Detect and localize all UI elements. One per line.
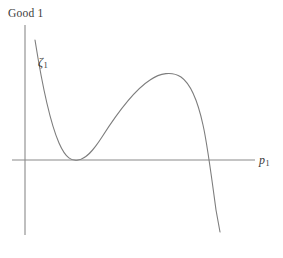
vertical-axis-label: Good 1 [8, 8, 43, 20]
horizontal-axis-label: p1 [259, 154, 270, 168]
excess-demand-figure: Good 1 ζ1 p1 [0, 0, 283, 258]
excess-demand-curve [35, 40, 220, 232]
horizontal-axis-label-subscript: 1 [265, 159, 270, 168]
plot-canvas [0, 0, 283, 258]
curve-label: ζ1 [38, 56, 48, 70]
curve-label-subscript: 1 [43, 60, 48, 70]
